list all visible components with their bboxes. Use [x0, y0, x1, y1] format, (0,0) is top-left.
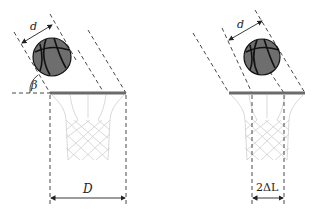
ball-diameter-dimension [229, 21, 262, 40]
basketball-hoop-diagram: β d D [0, 0, 316, 220]
basketball-icon [33, 38, 71, 76]
ball-diameter-label: d [30, 20, 37, 33]
ball-diameter-label: d [237, 18, 244, 31]
clearance-label: 2ΔL [256, 181, 279, 194]
hoop-width-label: D [82, 182, 93, 196]
hoop-net [52, 95, 124, 160]
angle-beta-label: β [30, 79, 37, 92]
basketball-icon [244, 39, 280, 75]
hoop-net [231, 95, 303, 160]
left-panel: β d D [12, 14, 126, 206]
hoop-rim [229, 92, 305, 95]
right-panel: d 2ΔL [193, 10, 305, 206]
hoop-rim [50, 92, 126, 95]
